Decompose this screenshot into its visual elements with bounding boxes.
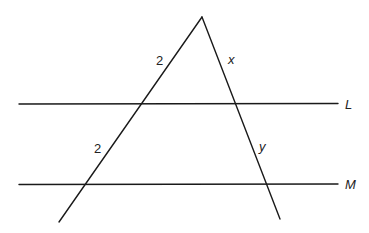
right-transversal bbox=[202, 17, 280, 219]
right-upper-segment-label: x bbox=[227, 52, 235, 67]
line-L-label: L bbox=[345, 97, 352, 112]
parallel-lines-triangle-diagram: L M 2 2 x y bbox=[0, 0, 369, 233]
line-M bbox=[19, 184, 338, 185]
left-lower-segment-label: 2 bbox=[94, 141, 101, 156]
left-transversal bbox=[59, 17, 202, 222]
line-L bbox=[19, 104, 338, 105]
line-M-label: M bbox=[345, 177, 356, 192]
left-upper-segment-label: 2 bbox=[156, 53, 163, 68]
right-lower-segment-label: y bbox=[258, 139, 267, 154]
